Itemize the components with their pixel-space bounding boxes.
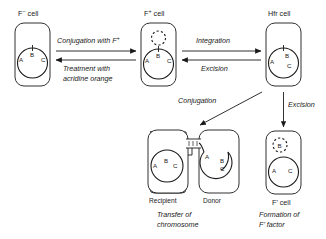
donor-gene-c: C — [220, 165, 225, 172]
acridine-orange-arrow-group: Treatment with acridine orange — [56, 60, 136, 83]
hfr-gene-a: A — [270, 58, 275, 65]
hfr-cell-label: Hfr cell — [268, 9, 291, 18]
donor-cell-group: Donor — [199, 130, 239, 204]
conjugation-diagram: F− cell A B C F+ cell A B C Hfr cell A B… — [0, 0, 326, 239]
hfr-gene-c: C — [287, 62, 292, 69]
excision-vertical-arrow-group: Excision — [284, 92, 315, 127]
f-prime-cell-group: B A C F' cell — [266, 131, 301, 207]
conjugation-tube — [186, 139, 201, 148]
conjugation-with-f-plus-arrow-group: Conjugation with F+ — [56, 35, 136, 51]
f-plus-free-f-factor — [152, 31, 166, 45]
transfer-caption-line2: chromosome — [157, 220, 199, 229]
acridine-orange-label-line2: acridine orange — [63, 74, 113, 83]
f-plus-gene-b: B — [156, 52, 160, 59]
conjugation-diagonal-arrow-group: Conjugation — [178, 92, 262, 125]
f-prime-gene-c: C — [288, 167, 293, 174]
f-prime-gene-a: A — [272, 167, 277, 174]
conjugation-with-f-plus-label: Conjugation with F+ — [57, 35, 120, 45]
f-minus-gene-c: C — [41, 56, 46, 63]
f-prime-cell-label: F' cell — [272, 198, 291, 207]
recipient-role-label: Recipient — [149, 197, 177, 205]
integration-arrow-group: Integration — [182, 36, 261, 51]
f-minus-cell-label: F− cell — [18, 8, 39, 18]
excision-horizontal-label: Excision — [201, 64, 228, 73]
donor-gene-b: B — [220, 157, 224, 164]
f-prime-plasmid-gene: B — [278, 142, 282, 149]
recipient-cell-group: A B C Recipient — [148, 130, 192, 205]
formation-caption-line2: F' factor — [259, 220, 285, 229]
f-plus-gene-a: A — [145, 57, 150, 64]
formation-caption-group: Formation of F' factor — [259, 210, 300, 229]
f-plus-cell-label: F+ cell — [144, 8, 165, 18]
f-minus-cell-group: F− cell A B C — [15, 8, 50, 86]
excision-vertical-label: Excision — [288, 100, 315, 109]
f-minus-gene-a: A — [19, 56, 24, 63]
recipient-gene-c: C — [173, 162, 178, 169]
excision-horizontal-arrow-group: Excision — [182, 60, 261, 73]
formation-caption-line1: Formation of — [259, 210, 300, 219]
transfer-caption-line1: Transfer of — [157, 210, 192, 219]
conjugation-tube-group — [186, 139, 201, 148]
donor-role-label: Donor — [203, 197, 222, 204]
f-plus-cell-group: F+ cell A B C — [141, 8, 176, 86]
integration-label: Integration — [196, 36, 230, 45]
donor-cell-outline — [199, 130, 239, 193]
hfr-cell-group: Hfr cell A B C — [266, 9, 301, 86]
f-plus-gene-c: C — [167, 57, 172, 64]
hfr-gene-b: B — [285, 52, 289, 59]
f-minus-gene-b: B — [30, 51, 34, 58]
conjugation-diagonal-label: Conjugation — [178, 96, 216, 105]
acridine-orange-label-line1: Treatment with — [63, 64, 110, 73]
transfer-caption-group: Transfer of chromosome — [157, 210, 199, 229]
recipient-gene-b: B — [164, 157, 168, 164]
